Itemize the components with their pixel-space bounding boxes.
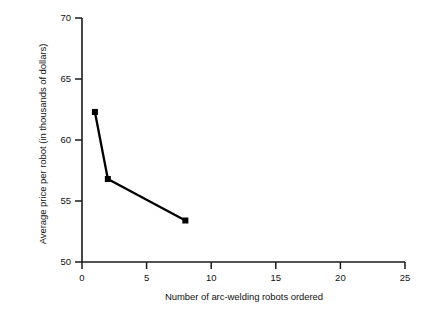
data-point-marker [92, 109, 98, 115]
y-axis-title: Average price per robot (in thousands of… [36, 20, 50, 268]
x-tick-label-25: 25 [392, 272, 418, 283]
x-axis-ticks [82, 262, 405, 269]
data-point-marker [182, 218, 188, 224]
x-tick-label-20: 20 [327, 272, 353, 283]
x-tick-label-5: 5 [134, 272, 160, 283]
chart-container: 70 65 60 55 50 0 5 10 15 20 25 Average p… [0, 0, 441, 311]
data-point-marker [105, 176, 111, 182]
x-axis-title: Number of arc-welding robots ordered [82, 291, 406, 303]
x-tick-label-0: 0 [69, 272, 95, 283]
y-axis-ticks [75, 18, 82, 262]
data-line-series-1 [95, 112, 185, 221]
x-tick-label-10: 10 [198, 272, 224, 283]
x-tick-label-15: 15 [263, 272, 289, 283]
